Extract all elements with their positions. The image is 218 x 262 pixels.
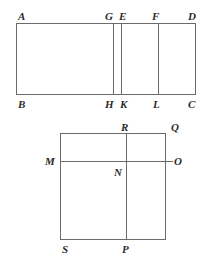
label-d: D bbox=[188, 11, 196, 22]
label-h: H bbox=[105, 99, 114, 110]
label-r: R bbox=[121, 122, 128, 133]
label-b: B bbox=[18, 99, 25, 110]
square-outline bbox=[61, 134, 166, 240]
label-s: S bbox=[62, 244, 68, 255]
label-o: O bbox=[174, 156, 182, 167]
label-q: Q bbox=[171, 122, 179, 133]
label-l: L bbox=[153, 99, 160, 110]
label-m: M bbox=[45, 156, 55, 167]
label-k: K bbox=[120, 99, 127, 110]
label-g: G bbox=[105, 11, 113, 22]
label-n: N bbox=[114, 167, 122, 178]
rectangle-abcd-group bbox=[17, 24, 196, 95]
rectangle-abcd-outline bbox=[17, 24, 196, 95]
square-sqrp-group bbox=[61, 134, 173, 240]
geometry-line-layer bbox=[0, 0, 218, 262]
label-e: E bbox=[119, 11, 126, 22]
label-p: P bbox=[122, 244, 129, 255]
label-a: A bbox=[18, 11, 25, 22]
label-f: F bbox=[152, 11, 159, 22]
label-c: C bbox=[188, 99, 195, 110]
geometry-figure-canvas: A G E F D B H K L C R Q M O N S P bbox=[0, 0, 218, 262]
